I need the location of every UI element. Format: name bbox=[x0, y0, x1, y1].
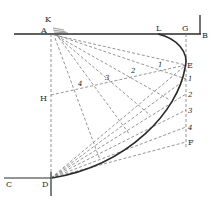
label-l: L bbox=[156, 24, 162, 33]
label-scale-2: 2 bbox=[187, 91, 193, 99]
ray-d-f bbox=[51, 142, 186, 178]
label-k: K bbox=[45, 15, 52, 24]
ray-a-1 bbox=[56, 35, 186, 79]
geometric-diagram: K A L G B E H F C D 1 2 3 4 1 2 3 4 bbox=[0, 0, 219, 203]
label-inner-3: 3 bbox=[105, 74, 110, 82]
ray-a-4 bbox=[59, 38, 130, 135]
dashed-lines bbox=[51, 34, 186, 178]
line-h-e bbox=[51, 65, 186, 95]
ray-d-1 bbox=[51, 79, 186, 178]
label-d: D bbox=[42, 180, 48, 189]
label-f: F bbox=[188, 138, 194, 147]
label-e: E bbox=[187, 61, 193, 70]
label-b: B bbox=[202, 31, 208, 40]
label-scale-1: 1 bbox=[188, 75, 192, 83]
label-c: C bbox=[6, 180, 12, 189]
label-inner-4: 4 bbox=[77, 80, 82, 88]
hatch-mark bbox=[53, 28, 68, 33]
label-a: A bbox=[40, 26, 47, 35]
ray-d-3 bbox=[51, 110, 186, 178]
label-inner-1: 1 bbox=[158, 61, 162, 69]
ray-d-2 bbox=[51, 94, 186, 178]
label-scale-4: 4 bbox=[187, 124, 192, 132]
ray-d-4 bbox=[51, 127, 186, 178]
label-scale-3: 3 bbox=[188, 107, 193, 115]
label-g: G bbox=[182, 24, 188, 33]
solid-lines bbox=[4, 15, 201, 196]
label-h: H bbox=[40, 94, 47, 103]
label-inner-2: 2 bbox=[130, 67, 136, 75]
